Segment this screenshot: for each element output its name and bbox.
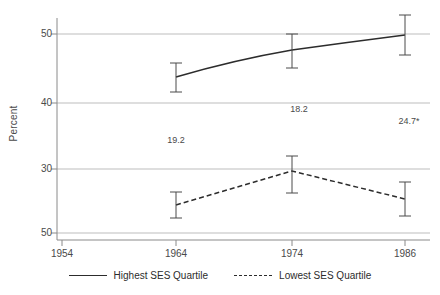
y-tick-0: 50 [22, 29, 52, 39]
error-bar-lowest-1974 [286, 156, 298, 193]
legend-label-highest-ses-quartile: Highest SES Quartile [114, 270, 209, 281]
y-axis-title: Percent [8, 89, 19, 159]
series-highest-ses-quartile [170, 15, 411, 92]
y-tick-label-2: 30 [26, 164, 52, 174]
x-tick-label-1974: 1974 [262, 248, 322, 259]
y-tick-1: 40 [22, 98, 52, 108]
y-tick-label-1: 40 [26, 98, 52, 108]
error-bar-highest-1964 [170, 63, 182, 92]
y-tick-label-3: 50 [26, 228, 52, 238]
gridlines [57, 34, 430, 233]
x-tick-label-1986: 1986 [375, 248, 435, 259]
x-axis-spine [57, 240, 430, 246]
y-axis-spine [51, 18, 57, 240]
y-tick-3: 50 [22, 228, 52, 238]
annotation-1986: 24.7* [379, 116, 439, 126]
annotation-1974: 18.2 [269, 104, 329, 114]
x-tick-label-1964: 1964 [146, 248, 206, 259]
series-lowest-ses-quartile [170, 156, 411, 218]
legend-label-lowest-ses-quartile: Lowest SES Quartile [279, 270, 371, 281]
chart-figure: Percent 50 40 30 50 1954 1964 1974 1986 … [0, 0, 440, 295]
legend-line-dashed-icon [234, 275, 272, 277]
legend-entry-highest-ses-quartile: Highest SES Quartile [69, 270, 209, 281]
legend-entry-lowest-ses-quartile: Lowest SES Quartile [234, 270, 371, 281]
error-bar-lowest-1986 [399, 182, 411, 216]
error-bar-lowest-1964 [170, 192, 182, 218]
x-tick-label-1954: 1954 [32, 248, 92, 259]
legend-line-solid-icon [69, 275, 107, 277]
y-tick-label-0: 50 [26, 29, 52, 39]
annotation-1964: 19.2 [146, 135, 206, 145]
y-tick-2: 30 [22, 164, 52, 174]
chart-legend: Highest SES Quartile Lowest SES Quartile [0, 270, 440, 281]
